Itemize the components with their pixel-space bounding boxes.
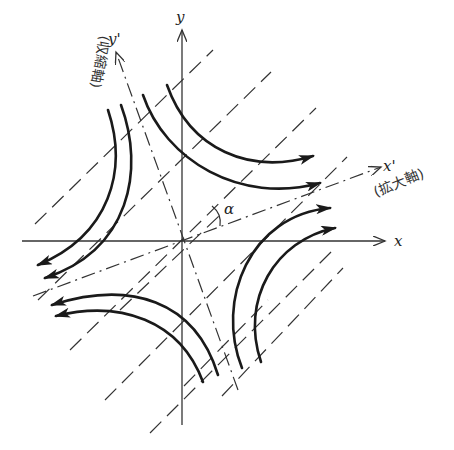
flow-curve-upper-right-inner [167,85,313,162]
x-prime-axis [33,167,381,296]
x-prime-caption: (拡大軸) [371,165,426,200]
flow-curve-lower-right-outer [255,228,335,362]
flow-curves [38,85,335,382]
flow-curve-lower-left-inner [56,311,203,382]
x-axis-label: x [394,232,403,250]
x-prime-label: x' [383,157,396,175]
flow-curve-lower-right-inner [233,208,330,368]
flow-curve-upper-right-outer [143,95,320,189]
angle-alpha-label: α [224,200,234,218]
flow-curve-upper-left-inner [45,105,131,278]
saddle-flow-diagram: x y x' y' α (拡大軸) (収縮軸) [0,0,454,450]
y-axis-label: y [175,8,185,26]
principal-axes [33,52,381,390]
y-prime-caption: (収縮軸) [88,34,113,89]
